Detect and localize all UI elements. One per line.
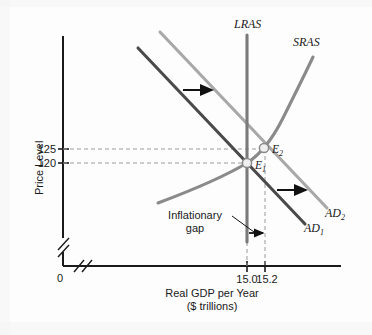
inflationary-gap-leader-line [232,216,254,232]
sras-curve-label: SRAS [293,36,320,50]
y-tick-label-120: 120 [26,157,56,170]
equilibrium-point-e2 [259,143,268,152]
lras-curve-label: LRAS [234,18,261,32]
ad1-curve-label: AD1 [304,222,324,238]
ad1-curve [138,48,305,224]
ad2-curve-label: AD2 [325,207,345,223]
ad1-curve-label-text: AD [304,221,320,235]
ad2-curve-label-text: AD [325,206,341,220]
origin-label: 0 [57,272,63,285]
ad2-curve [160,32,327,208]
x-axis-title-line1: Real GDP per Year [132,287,292,300]
equilibrium-label-e1: E1 [255,159,266,174]
inflationary-gap-label-line1: Inflationary [159,209,231,222]
inflationary-gap-label-line2: gap [159,222,231,235]
y-axis-break-mark-upper [58,238,69,250]
equilibrium-label-e2-text: E [272,143,279,155]
equilibrium-label-e1-sub: 1 [262,165,266,174]
x-axis-title-line2: ($ trillions) [132,300,292,313]
equilibrium-label-e2: E2 [272,143,283,158]
equilibrium-point-e1 [242,158,251,167]
sras-curve [158,57,313,203]
y-tick-label-125: 125 [26,143,56,156]
ad1-curve-label-sub: 1 [320,228,324,237]
equilibrium-label-e1-text: E [255,159,262,171]
equilibrium-label-e2-sub: 2 [279,149,283,158]
ad-as-diagram-figure: Price Level 125 120 0 15.0 15.2 Real GDP… [0,0,372,335]
ad2-curve-label-sub: 2 [341,213,345,222]
x-tick-label-15-2: 15.2 [251,273,283,286]
